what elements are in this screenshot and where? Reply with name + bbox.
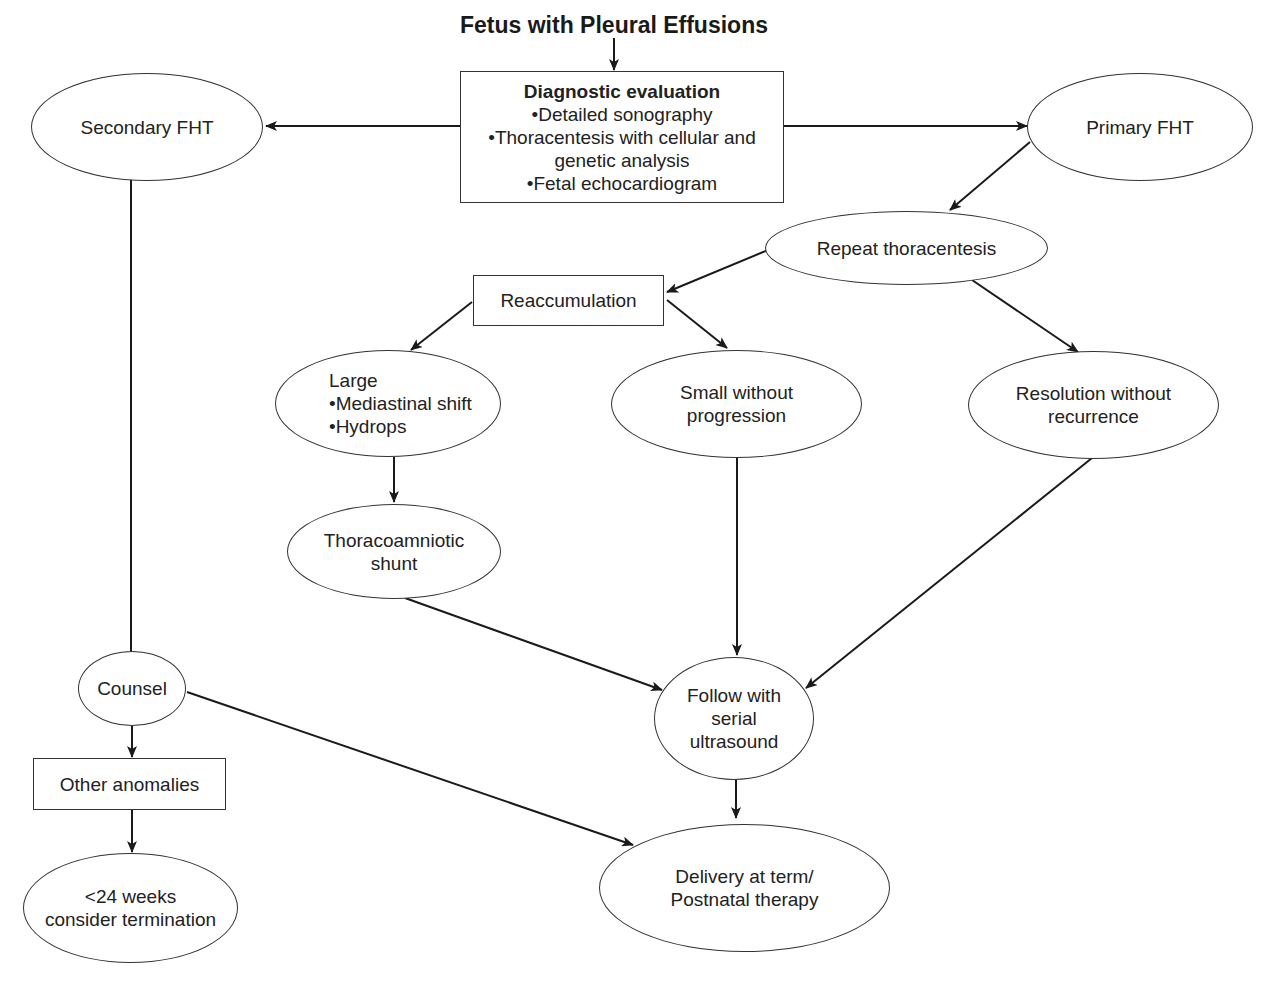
large-line: Large [329, 369, 378, 392]
arrow-repeat-to-reaccumulation [667, 250, 768, 292]
termination-line: <24 weeks [85, 885, 176, 908]
reaccumulation-label: Reaccumulation [500, 289, 636, 312]
arrow-resolution-to-follow [806, 458, 1092, 688]
resolution-without-recurrence-node: Resolution without recurrence [968, 351, 1219, 459]
arrow-repeat-to-resolution [972, 280, 1078, 352]
thoracoamniotic-shunt-node: Thoracoamniotic shunt [287, 504, 501, 599]
small-line: progression [687, 404, 786, 427]
termination-line: consider termination [45, 908, 216, 931]
delivery-postnatal-node: Delivery at term/ Postnatal therapy [599, 824, 890, 952]
resolution-line: recurrence [1048, 405, 1139, 428]
large-line: •Mediastinal shift [329, 392, 472, 415]
diagnostic-item: •Fetal echocardiogram [527, 172, 717, 195]
shunt-line: shunt [371, 552, 417, 575]
repeat-thoracentesis-node: Repeat thoracentesis [765, 211, 1048, 285]
secondary-fht-label: Secondary FHT [80, 116, 213, 139]
arrow-reaccumulation-to-large [411, 302, 472, 350]
secondary-fht-node: Secondary FHT [31, 73, 263, 181]
other-anomalies-box: Other anomalies [33, 758, 226, 810]
counsel-label: Counsel [97, 677, 167, 700]
arrow-reaccumulation-to-small [667, 300, 727, 348]
other-anomalies-label: Other anomalies [60, 773, 199, 796]
repeat-thoracentesis-label: Repeat thoracentesis [817, 237, 997, 260]
diagram-title: Fetus with Pleural Effusions [0, 12, 1228, 39]
diagnostic-item: genetic analysis [554, 149, 689, 172]
counsel-node: Counsel [78, 651, 186, 726]
large-line: •Hydrops [329, 415, 406, 438]
diagnostic-heading: Diagnostic evaluation [524, 80, 720, 103]
follow-serial-ultrasound-node: Follow with serial ultrasound [654, 657, 814, 780]
shunt-line: Thoracoamniotic [324, 529, 464, 552]
diagnostic-evaluation-box: Diagnostic evaluation •Detailed sonograp… [460, 71, 784, 203]
reaccumulation-box: Reaccumulation [473, 275, 664, 326]
primary-fht-label: Primary FHT [1086, 116, 1194, 139]
arrow-shunt-to-follow [405, 598, 662, 690]
small-without-progression-node: Small without progression [611, 350, 862, 458]
arrow-counsel-to-delivery [187, 692, 633, 845]
delivery-line: Delivery at term/ [675, 865, 813, 888]
follow-line: Follow with [687, 684, 781, 707]
large-effusion-node: Large •Mediastinal shift •Hydrops [275, 350, 501, 457]
diagnostic-item: •Thoracentesis with cellular and [488, 126, 756, 149]
arrow-primary-to-repeat [950, 142, 1030, 210]
small-line: Small without [680, 381, 793, 404]
delivery-line: Postnatal therapy [671, 888, 819, 911]
consider-termination-node: <24 weeks consider termination [23, 853, 238, 963]
primary-fht-node: Primary FHT [1027, 73, 1253, 181]
follow-line: serial [711, 707, 756, 730]
diagnostic-item: •Detailed sonography [532, 103, 713, 126]
resolution-line: Resolution without [1016, 382, 1171, 405]
follow-line: ultrasound [690, 730, 779, 753]
